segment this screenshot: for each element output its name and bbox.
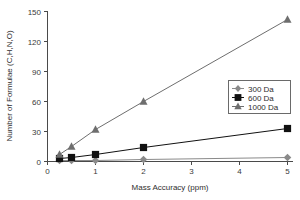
data-point-triangle [140, 97, 148, 104]
y-axis-title: Number of Formulae (C,H,N,O) [5, 30, 14, 141]
x-tick-label-2: 2 [141, 167, 146, 176]
x-axis-title: Mass Accuracy (ppm) [132, 183, 209, 192]
data-point-triangle [68, 142, 76, 149]
data-point-triangle [56, 150, 64, 157]
x-tick-label-3: 3 [189, 167, 194, 176]
legend: 300 Da 600 Da 1000 Da [229, 81, 291, 114]
y-tick-label-0: 0 [37, 158, 42, 167]
chart-figure: 0 30 60 90 120 150 0 1 2 3 4 5 Mass Accu… [0, 0, 300, 200]
data-point-triangle [92, 125, 100, 132]
y-tick-label-30: 30 [32, 128, 41, 137]
legend-label-300: 300 Da [248, 85, 274, 94]
y-tick-label-150: 150 [28, 8, 42, 17]
x-tick-label-1: 1 [93, 167, 98, 176]
line-chart: 0 30 60 90 120 150 0 1 2 3 4 5 Mass Accu… [0, 0, 300, 200]
legend-label-600: 600 Da [248, 94, 274, 103]
y-tick-label-60: 60 [32, 98, 41, 107]
y-tick-label-90: 90 [32, 68, 41, 77]
data-point-square [92, 151, 99, 158]
data-point-square [140, 144, 147, 151]
data-point-triangle [284, 15, 292, 22]
square-icon [235, 94, 242, 101]
data-point-diamond [140, 156, 148, 164]
x-tick-label-5: 5 [285, 167, 290, 176]
legend-label-1000: 1000 Da [248, 103, 279, 112]
data-point-square [284, 125, 291, 132]
x-tick-label-0: 0 [45, 167, 50, 176]
data-point-diamond [284, 154, 292, 162]
y-tick-label-120: 120 [28, 38, 42, 47]
series-600-da [56, 125, 291, 162]
x-tick-label-4: 4 [237, 167, 242, 176]
data-point-square [68, 154, 75, 161]
